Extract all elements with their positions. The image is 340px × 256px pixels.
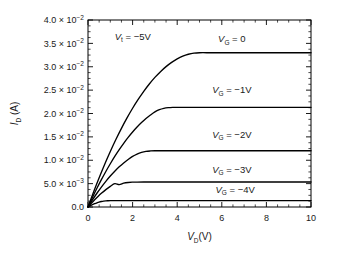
annotation-group: Vt = −5V [115, 31, 152, 44]
x-tick-label: 8 [264, 213, 269, 223]
x-tick-label: 10 [306, 213, 316, 223]
y-tick-label: 0.0 [71, 202, 84, 212]
curve-label: VG = −1V [212, 84, 252, 97]
x-tick-label: 2 [130, 213, 135, 223]
y-axis-tick-labels: 0.05.0 × 10−31.0 × 10−21.5 × 10−22.0 × 1… [44, 14, 85, 213]
curve-label: VG = 0 [218, 33, 246, 46]
x-tick-label: 4 [175, 213, 180, 223]
x-tick-label: 0 [85, 213, 90, 223]
curve-label: VG = −3V [212, 164, 252, 177]
curve-label: VG = −2V [212, 129, 252, 142]
output-characteristics-chart: 0.05.0 × 10−31.0 × 10−21.5 × 10−22.0 × 1… [0, 0, 340, 256]
annotation-threshold-voltage: Vt = −5V [115, 31, 152, 44]
curve-label: VG = −4V [215, 184, 255, 197]
x-axis-title: VD(V) [187, 231, 212, 244]
figure-container: 0.05.0 × 10−31.0 × 10−21.5 × 10−22.0 × 1… [0, 0, 340, 256]
x-tick-label: 6 [219, 213, 224, 223]
